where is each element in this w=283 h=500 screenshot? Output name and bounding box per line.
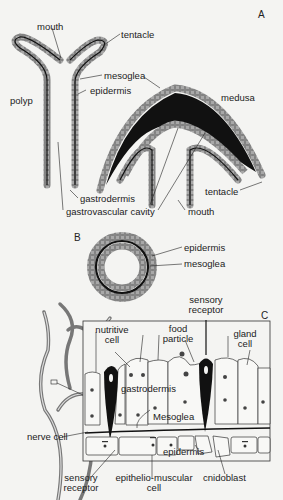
label-epithelio-muscular-cell: epithelio-muscular cell [114, 473, 194, 493]
panel-label-c: C [261, 310, 268, 321]
label-epidermis-a: epidermis [90, 86, 131, 96]
label-mesoglea-c: Mesoglea [153, 412, 194, 422]
label-epidermis-c: epidermis [163, 447, 204, 457]
label-nutritive-cell: nutritive cell [92, 325, 132, 345]
cross-section-ring [91, 236, 153, 298]
label-sensory-receptor-top: sensory receptor [186, 295, 226, 315]
label-mesoglea-b: mesoglea [184, 259, 225, 269]
label-nerve-cell: nerve cell [27, 432, 68, 442]
label-tentacle-top: tentacle [121, 30, 154, 40]
label-mesoglea-a: mesoglea [104, 71, 145, 81]
label-food-particle: food particle [158, 324, 198, 344]
label-polyp: polyp [10, 96, 33, 106]
panel-label-b: B [74, 232, 81, 243]
label-sensory-receptor-bottom: sensory receptor [60, 473, 102, 493]
label-mouth-polyp: mouth [37, 22, 63, 32]
label-epidermis-b: epidermis [184, 243, 225, 253]
label-gastrodermis-c: gastrodermis [121, 384, 176, 394]
label-cnidoblast: cnidoblast [203, 473, 246, 483]
label-gland-cell: gland cell [230, 329, 260, 349]
panel-label-a: A [258, 9, 265, 20]
label-medusa: medusa [221, 93, 255, 103]
label-mouth-medusa: mouth [188, 207, 214, 217]
label-gastrovascular-cavity: gastrovascular cavity [66, 207, 155, 217]
label-gastrodermis-a: gastrodermis [80, 194, 135, 204]
label-tentacle-bottom: tentacle [205, 187, 238, 197]
